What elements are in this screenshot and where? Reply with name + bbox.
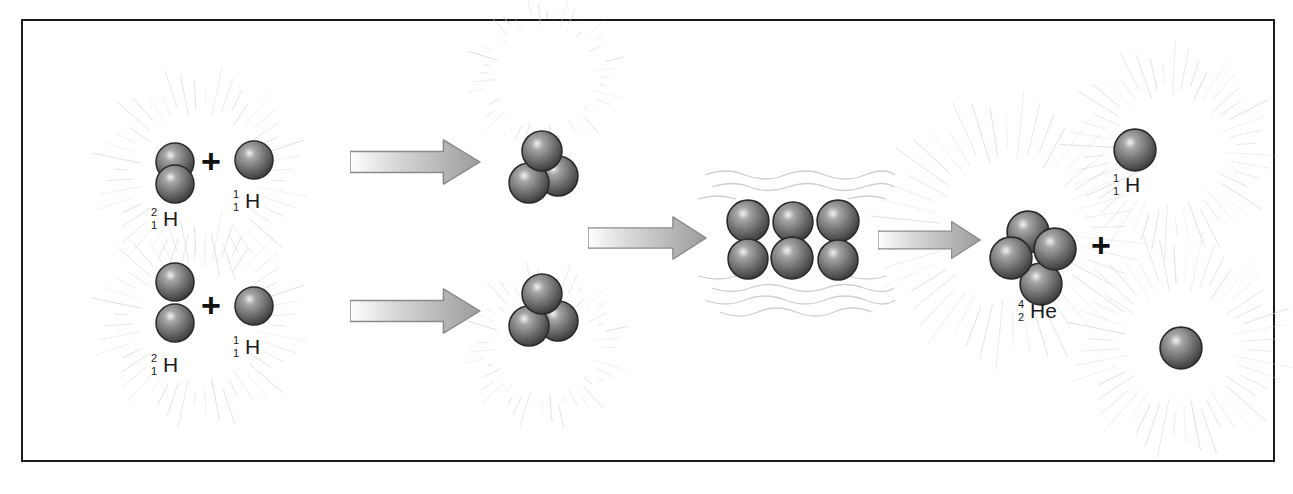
plus-sign: + bbox=[201, 288, 221, 322]
element-symbol: H bbox=[245, 335, 260, 359]
proton-nucleus-product bbox=[1114, 129, 1156, 171]
arrow-icon bbox=[588, 217, 706, 259]
atomic-number: 1 bbox=[233, 347, 239, 359]
proton-nucleus-bottom bbox=[235, 287, 273, 325]
plus-sign: + bbox=[1091, 228, 1111, 262]
helium-4-nucleus bbox=[990, 211, 1076, 305]
mass-number: 2 bbox=[151, 206, 157, 218]
element-symbol: H bbox=[163, 207, 178, 231]
arrow-icon bbox=[350, 289, 480, 333]
atomic-number: 1 bbox=[1113, 185, 1119, 197]
helium-3-nucleus-bottom bbox=[509, 274, 578, 346]
element-symbol: H bbox=[163, 353, 178, 377]
deuterium-nucleus-bottom bbox=[156, 263, 194, 342]
element-symbol: H bbox=[245, 189, 260, 213]
plus-sign: + bbox=[201, 144, 221, 178]
arrow-icon bbox=[878, 222, 980, 259]
proton-nucleus-top bbox=[235, 141, 273, 179]
element-symbol: H bbox=[1125, 173, 1140, 197]
mass-number: 2 bbox=[151, 352, 157, 364]
proton-nucleus-released bbox=[1160, 327, 1202, 369]
atomic-number: 1 bbox=[151, 365, 157, 377]
element-symbol: He bbox=[1030, 299, 1057, 323]
helium-3-nucleus-top bbox=[509, 131, 578, 203]
atomic-number: 1 bbox=[233, 201, 239, 213]
arrow-icon bbox=[350, 140, 480, 184]
atomic-number: 1 bbox=[151, 219, 157, 231]
mass-number: 1 bbox=[233, 188, 239, 200]
mass-number: 1 bbox=[1113, 172, 1119, 184]
mass-number: 1 bbox=[233, 334, 239, 346]
mass-number: 4 bbox=[1018, 298, 1024, 310]
atomic-number: 2 bbox=[1018, 311, 1024, 323]
merging-nuclei-cluster bbox=[727, 200, 859, 280]
deuterium-nucleus-top bbox=[156, 143, 194, 203]
